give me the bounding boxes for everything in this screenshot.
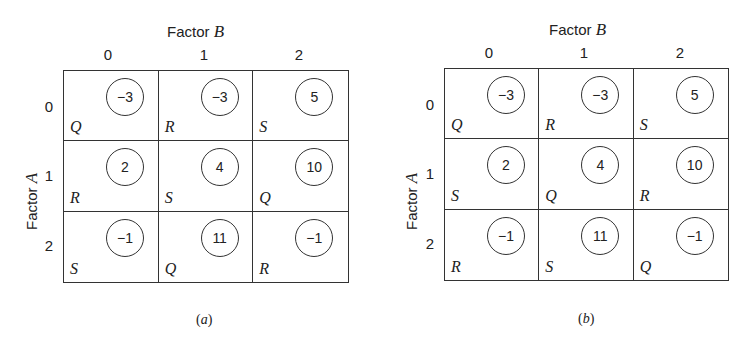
treatment-letter: R — [451, 258, 461, 276]
grid-cell: 11Q — [159, 212, 254, 282]
grid-cell: 10R — [634, 139, 728, 209]
response-circle: −1 — [676, 217, 714, 255]
grid-cell: 10Q — [253, 141, 348, 211]
panel-caption: (b) — [578, 311, 594, 327]
treatment-letter: R — [165, 118, 175, 136]
treatment-letter: S — [165, 189, 173, 207]
grid-cell: −3R — [159, 71, 254, 141]
grid-cell: 5S — [634, 69, 728, 139]
grid-cell: 11S — [539, 210, 633, 280]
row-label: 1 — [39, 167, 59, 184]
treatment-letter: S — [451, 187, 459, 205]
col-label: 0 — [479, 44, 499, 61]
treatment-letter: Q — [70, 118, 82, 136]
response-circle: −3 — [106, 78, 144, 116]
design-grid: −3Q −3R 5S 2R 4S 10Q −1S 11Q −1R — [63, 70, 349, 283]
response-circle: 4 — [581, 146, 619, 184]
response-circle: 4 — [201, 148, 239, 186]
response-circle: −3 — [201, 78, 239, 116]
factor-a-label: Factor A — [402, 173, 422, 230]
response-circle: 10 — [295, 148, 333, 186]
grid-cell: 4S — [159, 141, 254, 211]
design-grid: −3Q −3R 5S 2S 4Q 10R −1R 11S −1Q — [444, 68, 729, 281]
grid-cell: −1S — [64, 212, 159, 282]
col-label: 1 — [574, 44, 594, 61]
col-label: 0 — [98, 46, 118, 63]
treatment-letter: Q — [640, 258, 652, 276]
col-label: 2 — [289, 46, 309, 63]
grid-cell: −3Q — [445, 69, 539, 139]
grid-cell: 2S — [445, 139, 539, 209]
grid-cell: −1Q — [634, 210, 728, 280]
response-circle: 5 — [676, 76, 714, 114]
panel-caption: (a) — [196, 312, 212, 328]
response-circle: 10 — [676, 146, 714, 184]
grid-cell: −3Q — [64, 71, 159, 141]
grid-cell: −3R — [539, 69, 633, 139]
treatment-letter: Q — [259, 189, 271, 207]
treatment-letter: R — [545, 116, 555, 134]
grid-cell: −1R — [253, 212, 348, 282]
grid-cell: 2R — [64, 141, 159, 211]
response-circle: 11 — [581, 217, 619, 255]
row-label: 0 — [420, 96, 440, 113]
grid-cell: −1R — [445, 210, 539, 280]
treatment-letter: S — [70, 260, 78, 278]
treatment-letter: S — [259, 118, 267, 136]
grid-cell: 5S — [253, 71, 348, 141]
factor-b-label: Factor B — [549, 20, 606, 40]
response-circle: −1 — [106, 219, 144, 257]
treatment-letter: Q — [451, 116, 463, 134]
response-circle: −3 — [581, 76, 619, 114]
col-label: 1 — [194, 46, 214, 63]
response-circle: 11 — [201, 219, 239, 257]
treatment-letter: Q — [545, 187, 557, 205]
factor-b-label: Factor B — [167, 22, 224, 42]
response-circle: 2 — [487, 146, 525, 184]
row-label: 0 — [39, 98, 59, 115]
treatment-letter: S — [640, 116, 648, 134]
response-circle: 5 — [295, 78, 333, 116]
response-circle: −3 — [487, 76, 525, 114]
grid-cell: 4Q — [539, 139, 633, 209]
response-circle: −1 — [487, 217, 525, 255]
row-label: 2 — [39, 237, 59, 254]
treatment-letter: R — [640, 187, 650, 205]
row-label: 2 — [420, 235, 440, 252]
treatment-letter: S — [545, 258, 553, 276]
response-circle: −1 — [295, 219, 333, 257]
treatment-letter: R — [259, 260, 269, 278]
row-label: 1 — [420, 165, 440, 182]
treatment-letter: Q — [165, 260, 177, 278]
treatment-letter: R — [70, 189, 80, 207]
response-circle: 2 — [106, 148, 144, 186]
col-label: 2 — [670, 44, 690, 61]
